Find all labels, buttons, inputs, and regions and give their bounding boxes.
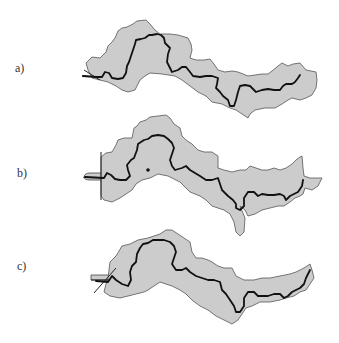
basin-figure xyxy=(0,0,339,343)
panel-b xyxy=(84,115,322,236)
outlet-point xyxy=(146,168,150,172)
panel-c xyxy=(91,230,314,324)
basin-c-outline xyxy=(104,230,314,324)
basin-b-outline xyxy=(101,115,322,236)
panel-a xyxy=(82,20,317,118)
basin-a-outline xyxy=(86,20,317,118)
